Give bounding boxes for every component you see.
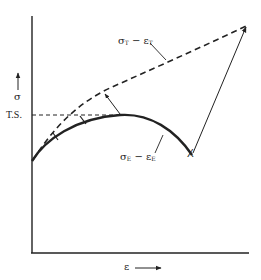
eng-curve-leader bbox=[155, 135, 163, 153]
y-axis-label: σ bbox=[14, 92, 21, 102]
x-axis-label: ε bbox=[124, 262, 129, 272]
label-epsilon: − ε bbox=[129, 35, 149, 46]
label-sub: T bbox=[149, 39, 153, 46]
tensile-strength-label: T.S. bbox=[6, 110, 22, 120]
mapping-arrow bbox=[105, 94, 120, 114]
label-sigma: σ bbox=[120, 151, 127, 162]
true-stress-strain-curve bbox=[33, 26, 246, 160]
fracture-marker: X bbox=[187, 149, 194, 159]
label-sub: E bbox=[151, 155, 155, 162]
true-curve-label: σT − εT bbox=[118, 36, 153, 46]
fracture-arrow bbox=[193, 27, 246, 153]
label-epsilon: − ε bbox=[131, 151, 151, 162]
stress-strain-diagram: σ ε T.S. σT − εT σE − εE X bbox=[0, 0, 261, 280]
label-sigma: σ bbox=[118, 35, 125, 46]
engineering-curve-label: σE − εE bbox=[120, 152, 156, 162]
